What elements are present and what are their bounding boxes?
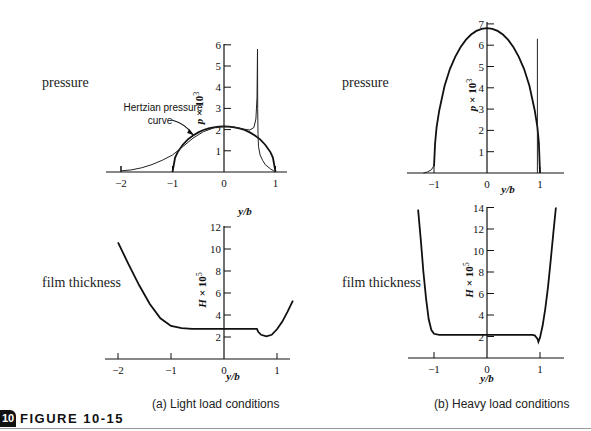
y-tick-label: 4 <box>479 82 485 94</box>
x-tick-label: −1 <box>428 178 440 190</box>
y-tick-label: 5 <box>479 61 485 73</box>
y-tick-label: 10 <box>473 245 485 257</box>
x-tick-label: 0 <box>221 177 227 189</box>
x-tick-label: −2 <box>112 364 124 376</box>
x-axis-label: y/b <box>224 370 240 382</box>
x-tick-label: 1 <box>273 177 279 189</box>
arrowhead-icon <box>187 129 193 135</box>
y-tick-label: 12 <box>473 223 484 235</box>
y-tick-label: 2 <box>479 331 485 343</box>
y-tick-label: 4 <box>479 309 485 321</box>
y-tick-label: 1 <box>479 146 485 158</box>
y-tick-label: 10 <box>210 243 222 255</box>
y-tick-label: 6 <box>216 39 222 51</box>
figure-plots: 123456−2−101p × 103y/bHertzian pressurec… <box>0 0 591 431</box>
y-tick-label: 2 <box>479 124 485 136</box>
x-axis-label: y/b <box>478 372 494 384</box>
caption-a: (a) Light load conditions <box>152 397 279 411</box>
chart-b-pressure: 1234567−101p × 103y/b <box>407 18 564 195</box>
x-axis-label: y/b <box>499 183 515 195</box>
y-tick-label: 2 <box>216 331 222 343</box>
annotation-hertzian-line2: curve <box>148 115 173 126</box>
x-tick-label: −1 <box>428 363 440 375</box>
x-tick-label: −1 <box>165 364 177 376</box>
y-tick-label: 6 <box>216 287 222 299</box>
y-axis-label: H × 105 <box>462 262 475 298</box>
y-tick-label: 6 <box>479 39 485 51</box>
chart-a-film-thickness: 24681012−2−101H × 105y/b <box>105 221 293 382</box>
x-tick-label: −2 <box>115 177 127 189</box>
y-tick-label: 8 <box>216 265 222 277</box>
y-tick-label: 4 <box>216 81 222 93</box>
y-tick-label: 6 <box>479 288 485 300</box>
caption-b: (b) Heavy load conditions <box>434 397 569 411</box>
chart-b-film-thickness: 2468101214−101H × 105y/b <box>408 202 564 385</box>
x-tick-label: −1 <box>167 177 179 189</box>
divider-rule <box>0 428 591 429</box>
y-axis-label: H × 105 <box>195 272 208 308</box>
y-tick-label: 3 <box>479 103 485 115</box>
x-axis-label: y/b <box>236 205 252 217</box>
chart-a-pressure: 123456−2−101p × 103y/bHertzian pressurec… <box>106 39 287 217</box>
y-tick-label: 14 <box>473 202 485 214</box>
y-tick-label: 8 <box>479 266 485 278</box>
y-axis-label: p × 103 <box>465 79 478 112</box>
x-tick-label: 0 <box>484 178 490 190</box>
figure-title: FIGURE 10-15 <box>20 410 124 427</box>
x-tick-label: 1 <box>537 363 543 375</box>
y-tick-label: 4 <box>216 309 222 321</box>
y-tick-label: 12 <box>210 221 221 233</box>
y-tick-label: 2 <box>216 124 222 136</box>
series-line <box>423 166 434 174</box>
x-tick-label: 1 <box>537 178 543 190</box>
annotation-hertzian: Hertzian pressure <box>124 102 203 113</box>
y-tick-label: 5 <box>216 60 222 72</box>
y-tick-label: 1 <box>216 145 222 157</box>
y-tick-label: 3 <box>216 102 222 114</box>
x-tick-label: 1 <box>274 364 280 376</box>
chapter-badge: 10 <box>0 410 16 427</box>
